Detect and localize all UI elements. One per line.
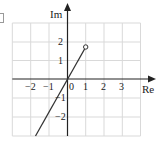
y-tick-label: −2 (55, 112, 66, 122)
y-tick-label: −1 (55, 93, 66, 103)
argand-diagram (0, 0, 161, 142)
y-tick-label: 2 (58, 37, 63, 47)
x-tick-label: 2 (101, 82, 106, 92)
x-tick-label: −1 (43, 82, 54, 92)
im-axis-arrow-icon (64, 3, 71, 11)
re-axis-label: Re (142, 84, 154, 95)
open-circle-endpoint (84, 45, 88, 49)
x-tick-label: 1 (83, 82, 88, 92)
re-axis-arrow-icon (148, 76, 156, 83)
x-tick-label: 3 (119, 82, 124, 92)
origin-label: 0 (69, 82, 74, 92)
im-axis-label: Im (50, 9, 62, 20)
y-tick-label: 1 (58, 56, 63, 66)
x-tick-label: −2 (25, 82, 36, 92)
